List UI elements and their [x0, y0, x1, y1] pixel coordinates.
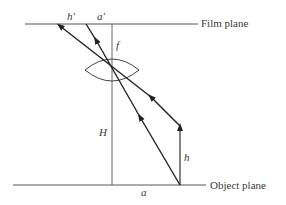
ray-object-top-cont — [60, 26, 151, 97]
ray-object-base-end — [86, 24, 96, 40]
ray-object-base-cont — [96, 40, 140, 117]
label-a-prime: a' — [97, 10, 106, 22]
ray-object-base — [140, 117, 180, 185]
label-h: h — [184, 151, 190, 163]
label-H: H — [98, 126, 108, 138]
label-object-plane: Object plane — [210, 179, 266, 191]
label-a: a — [141, 186, 147, 198]
pinhole-lens-diagram: h' a' f H h a Film plane Object plane — [0, 0, 286, 205]
label-f: f — [116, 39, 121, 51]
label-film-plane: Film plane — [201, 17, 248, 29]
label-h-prime: h' — [67, 10, 76, 22]
ray-object-top — [151, 97, 180, 126]
